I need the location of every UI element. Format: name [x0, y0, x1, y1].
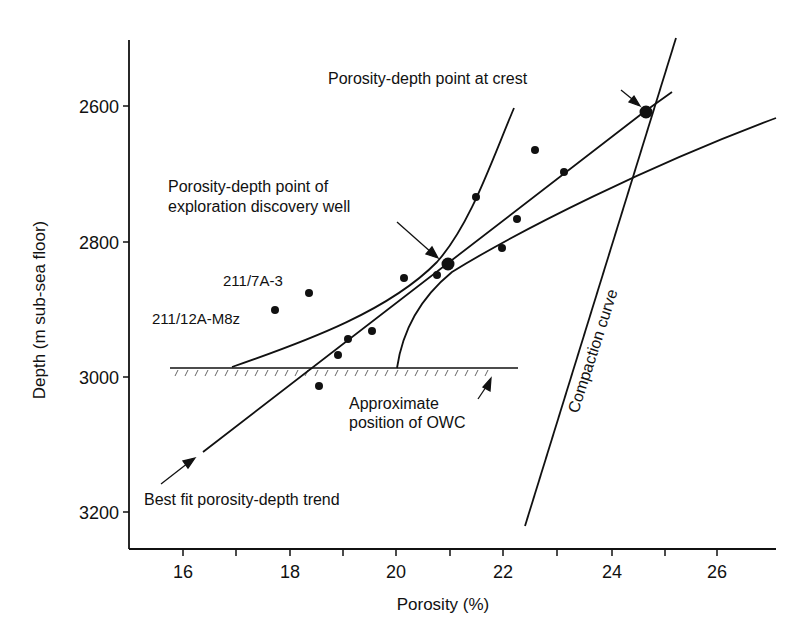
- compaction-curve-line: [525, 38, 676, 526]
- x-tick-label: 22: [493, 562, 513, 582]
- porosity-depth-chart: 2600 2800 3000 3200 16 18 20 22 24 26 Po…: [0, 0, 803, 637]
- x-ticks: [183, 549, 717, 556]
- y-tick-label: 2600: [79, 97, 119, 117]
- x-tick-label: 26: [707, 562, 727, 582]
- owc-label-line2: position of OWC: [349, 414, 465, 431]
- axes: [129, 40, 776, 549]
- discovery-arrow-icon: [397, 222, 438, 258]
- well-label-211-12a-m8z: 211/12A-M8z: [152, 310, 240, 327]
- x-tick-label: 24: [602, 562, 622, 582]
- data-point: [334, 351, 342, 359]
- owc-arrow-icon: [478, 378, 491, 399]
- data-point: [560, 168, 568, 176]
- crest-arrow-icon: [621, 90, 640, 106]
- data-point: [472, 193, 480, 201]
- crest-label: Porosity-depth point at crest: [328, 70, 528, 87]
- owc-line: [170, 368, 518, 376]
- crest-point: [640, 106, 653, 119]
- x-tick-label: 20: [386, 562, 406, 582]
- data-point: [433, 271, 441, 279]
- data-point: [400, 274, 408, 282]
- data-point: [513, 215, 521, 223]
- best-fit-label: Best fit porosity-depth trend: [144, 491, 340, 508]
- owc-label-line1: Approximate: [349, 395, 439, 412]
- y-tick-label: 3000: [79, 368, 119, 388]
- y-tick-label: 2800: [79, 233, 119, 253]
- data-point-211-12a-m8z: [271, 306, 279, 314]
- best-fit-arrow-icon: [161, 458, 195, 484]
- y-tick-label: 3200: [79, 503, 119, 523]
- y-tick-labels: 2600 2800 3000 3200: [79, 97, 119, 523]
- data-point: [344, 335, 352, 343]
- x-tick-labels: 16 18 20 22 24 26: [173, 562, 727, 582]
- x-tick-label: 18: [280, 562, 300, 582]
- x-tick-label: 16: [173, 562, 193, 582]
- y-axis-label: Depth (m sub-sea floor): [30, 221, 49, 400]
- data-point: [315, 382, 323, 390]
- discovery-well-point: [442, 258, 455, 271]
- discovery-label-line1: Porosity-depth point of: [168, 178, 329, 195]
- data-point: [498, 244, 506, 252]
- data-point: [531, 146, 539, 154]
- discovery-label-line2: exploration discovery well: [168, 198, 350, 215]
- data-point: [368, 327, 376, 335]
- data-point-211-7a-3: [305, 289, 313, 297]
- x-axis-label: Porosity (%): [397, 595, 490, 614]
- well-label-211-7a-3: 211/7A-3: [223, 272, 283, 289]
